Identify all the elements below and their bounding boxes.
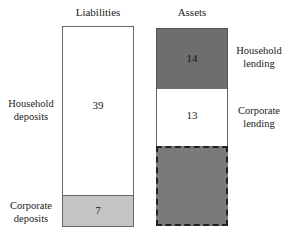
corporate-deposits-label: Corporate deposits xyxy=(2,199,60,225)
corporate-lending-label: Corporate lending xyxy=(230,104,288,130)
household-deposits-value: 39 xyxy=(63,99,133,111)
household-lending-box: 14 xyxy=(156,28,228,90)
household-deposits-box: 39 xyxy=(62,26,134,196)
corporate-lending-value: 13 xyxy=(157,109,227,121)
balance-sheet-diagram: Liabilities Assets 39 7 Household deposi… xyxy=(0,0,289,236)
corporate-lending-box: 13 xyxy=(156,89,228,147)
corporate-deposits-value: 7 xyxy=(63,204,133,216)
household-lending-value: 14 xyxy=(157,52,227,64)
household-lending-label: Household lending xyxy=(230,44,288,70)
household-deposits-label: Household deposits xyxy=(2,97,60,123)
corporate-deposits-box: 7 xyxy=(62,195,134,227)
liabilities-title: Liabilities xyxy=(62,6,134,18)
residual-assets-box xyxy=(156,146,228,226)
assets-title: Assets xyxy=(156,6,228,18)
